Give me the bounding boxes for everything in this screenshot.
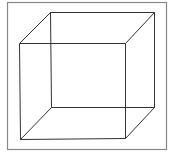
cube-edge-front-top-left-to-back-top-left [20, 13, 51, 44]
cube-edge-front-top-right-to-back-top-right [126, 13, 155, 44]
cube-edges [20, 13, 155, 140]
cube-edge-front-bottom-right-to-back-bottom-right [126, 108, 155, 139]
cube-edge-front-bottom-right-to-front-bottom-left [21, 139, 126, 140]
cube-edge-front-bottom-left-to-front-top-left [20, 44, 21, 140]
cube-edge-back-bottom-left-to-back-top-left [51, 13, 52, 108]
diagram-canvas [0, 0, 173, 154]
wireframe-cube-diagram [0, 0, 173, 154]
cube-edge-front-bottom-left-to-back-bottom-left [21, 108, 52, 140]
